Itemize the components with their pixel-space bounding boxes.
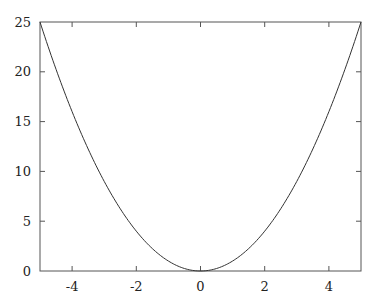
x-axis-tick-labels: -4-2024 — [66, 279, 333, 294]
y-tick-label: 5 — [23, 214, 31, 229]
plot-frame — [40, 22, 361, 271]
y-tick-label: 0 — [23, 264, 31, 279]
x-tick-label: 0 — [196, 279, 204, 294]
y-tick-label: 15 — [14, 114, 31, 129]
x-tick-label: 4 — [325, 279, 333, 294]
y-tick-label: 10 — [14, 164, 31, 179]
y-tick-label: 25 — [14, 15, 31, 30]
data-series-curve — [40, 22, 361, 271]
x-tick-label: -2 — [130, 279, 143, 294]
plot-border — [40, 22, 361, 271]
y-axis-tick-labels: 0510152025 — [14, 15, 31, 279]
chart: -4-2024 0510152025 — [0, 0, 380, 306]
x-tick-label: 2 — [261, 279, 269, 294]
axis-ticks — [40, 22, 361, 271]
x-tick-label: -4 — [66, 279, 79, 294]
y-tick-label: 20 — [14, 64, 31, 79]
